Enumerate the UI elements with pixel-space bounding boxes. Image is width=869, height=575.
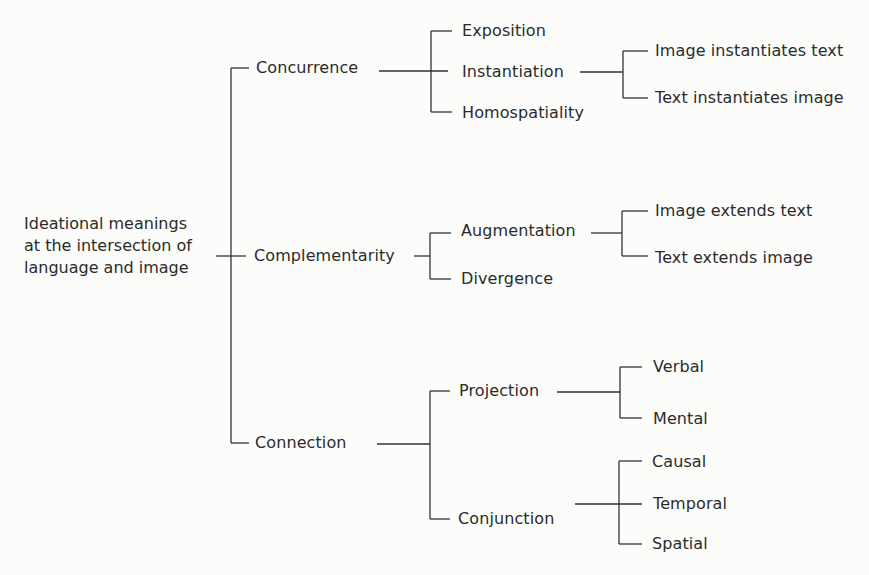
node-temporal: Temporal (653, 494, 727, 514)
node-augmentation: Augmentation (461, 221, 576, 241)
root-line-1: Ideational meanings (24, 213, 192, 235)
node-exposition: Exposition (462, 21, 546, 41)
root-line-2: at the intersection of (24, 235, 192, 257)
node-image-extends-text: Image extends text (655, 201, 812, 221)
node-text-extends-image: Text extends image (655, 248, 813, 268)
system-network-diagram: Ideational meanings at the intersection … (0, 0, 869, 575)
node-instantiation: Instantiation (462, 62, 564, 82)
node-verbal: Verbal (653, 357, 704, 377)
root-node: Ideational meanings at the intersection … (24, 213, 192, 279)
node-spatial: Spatial (652, 534, 708, 554)
node-causal: Causal (652, 452, 706, 472)
node-homospatiality: Homospatiality (462, 103, 584, 123)
node-complementarity: Complementarity (254, 246, 395, 266)
node-divergence: Divergence (461, 269, 553, 289)
node-text-instantiates-image: Text instantiates image (655, 88, 844, 108)
root-line-3: language and image (24, 257, 192, 279)
node-conjunction: Conjunction (458, 509, 554, 529)
node-connection: Connection (255, 433, 347, 453)
node-projection: Projection (459, 381, 539, 401)
node-image-instantiates-text: Image instantiates text (655, 41, 843, 61)
connector-lines (0, 0, 869, 575)
node-mental: Mental (653, 409, 708, 429)
node-concurrence: Concurrence (256, 58, 358, 78)
